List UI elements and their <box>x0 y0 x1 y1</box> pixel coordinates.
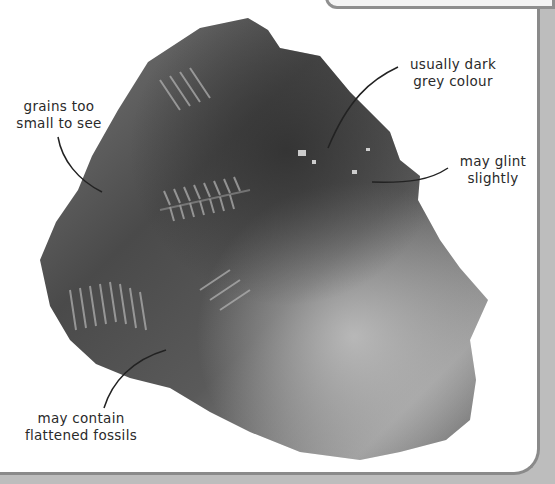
annotation-grains-line1: grains too <box>14 98 104 115</box>
annotation-fossils-line2: flattened fossils <box>16 427 146 444</box>
annotation-glint-line1: may glint <box>448 153 538 170</box>
annotation-glint: may glint slightly <box>448 153 538 187</box>
leader-grains <box>58 137 102 192</box>
leader-colour <box>328 67 398 148</box>
annotation-colour-line2: grey colour <box>398 73 508 90</box>
annotation-grains-line2: small to see <box>14 115 104 132</box>
leader-glint <box>372 168 448 182</box>
annotation-glint-line2: slightly <box>448 170 538 187</box>
leader-fossils <box>104 350 166 408</box>
annotation-fossils: may contain flattened fossils <box>16 410 146 444</box>
annotation-grains: grains too small to see <box>14 98 104 132</box>
annotation-colour: usually dark grey colour <box>398 56 508 90</box>
annotation-fossils-line1: may contain <box>16 410 146 427</box>
annotation-colour-line1: usually dark <box>398 56 508 73</box>
